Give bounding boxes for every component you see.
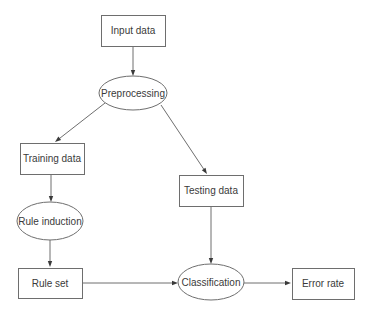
edge-classification-to-error-rate	[244, 281, 291, 285]
node-label: Training data	[23, 153, 81, 164]
node-input-data: Input data	[102, 16, 166, 47]
edge-training-data-to-rule-induction	[49, 174, 53, 202]
workflow-diagram: Input dataPreprocessingTraining dataTest…	[0, 0, 373, 319]
node-classification: Classification	[178, 264, 244, 300]
arrowhead-icon	[209, 258, 213, 264]
node-rule-set: Rule set	[19, 269, 83, 299]
arrowhead-icon	[49, 196, 53, 202]
edge-rule-set-to-classification	[82, 281, 178, 285]
nodes-layer: Input dataPreprocessingTraining dataTest…	[17, 16, 355, 301]
edge-preprocessing-to-training-data	[55, 103, 105, 142]
edge-rule-induction-to-rule-set	[48, 240, 52, 267]
edge-input-data-to-preprocessing	[131, 46, 135, 76]
node-training-data: Training data	[21, 144, 85, 175]
edge-preprocessing-to-testing-data	[161, 105, 207, 174]
arrowhead-icon	[285, 281, 291, 285]
node-preprocessing: Preprocessing	[99, 76, 167, 110]
arrowhead-icon	[172, 281, 178, 285]
node-label: Error rate	[302, 278, 345, 289]
node-label: Rule set	[32, 278, 69, 289]
node-error-rate: Error rate	[293, 269, 355, 300]
node-label: Classification	[182, 277, 241, 288]
node-testing-data: Testing data	[180, 176, 244, 207]
arrowhead-icon	[48, 261, 52, 267]
node-label: Preprocessing	[101, 88, 165, 99]
node-label: Input data	[111, 25, 156, 36]
connector-line	[161, 105, 204, 169]
connector-line	[60, 103, 105, 138]
node-label: Rule induction	[18, 216, 81, 227]
node-label: Testing data	[184, 185, 238, 196]
arrowhead-icon	[131, 70, 135, 76]
node-rule-induction: Rule induction	[17, 202, 83, 240]
edge-testing-data-to-classification	[209, 206, 213, 264]
arrowhead-icon	[202, 168, 207, 174]
